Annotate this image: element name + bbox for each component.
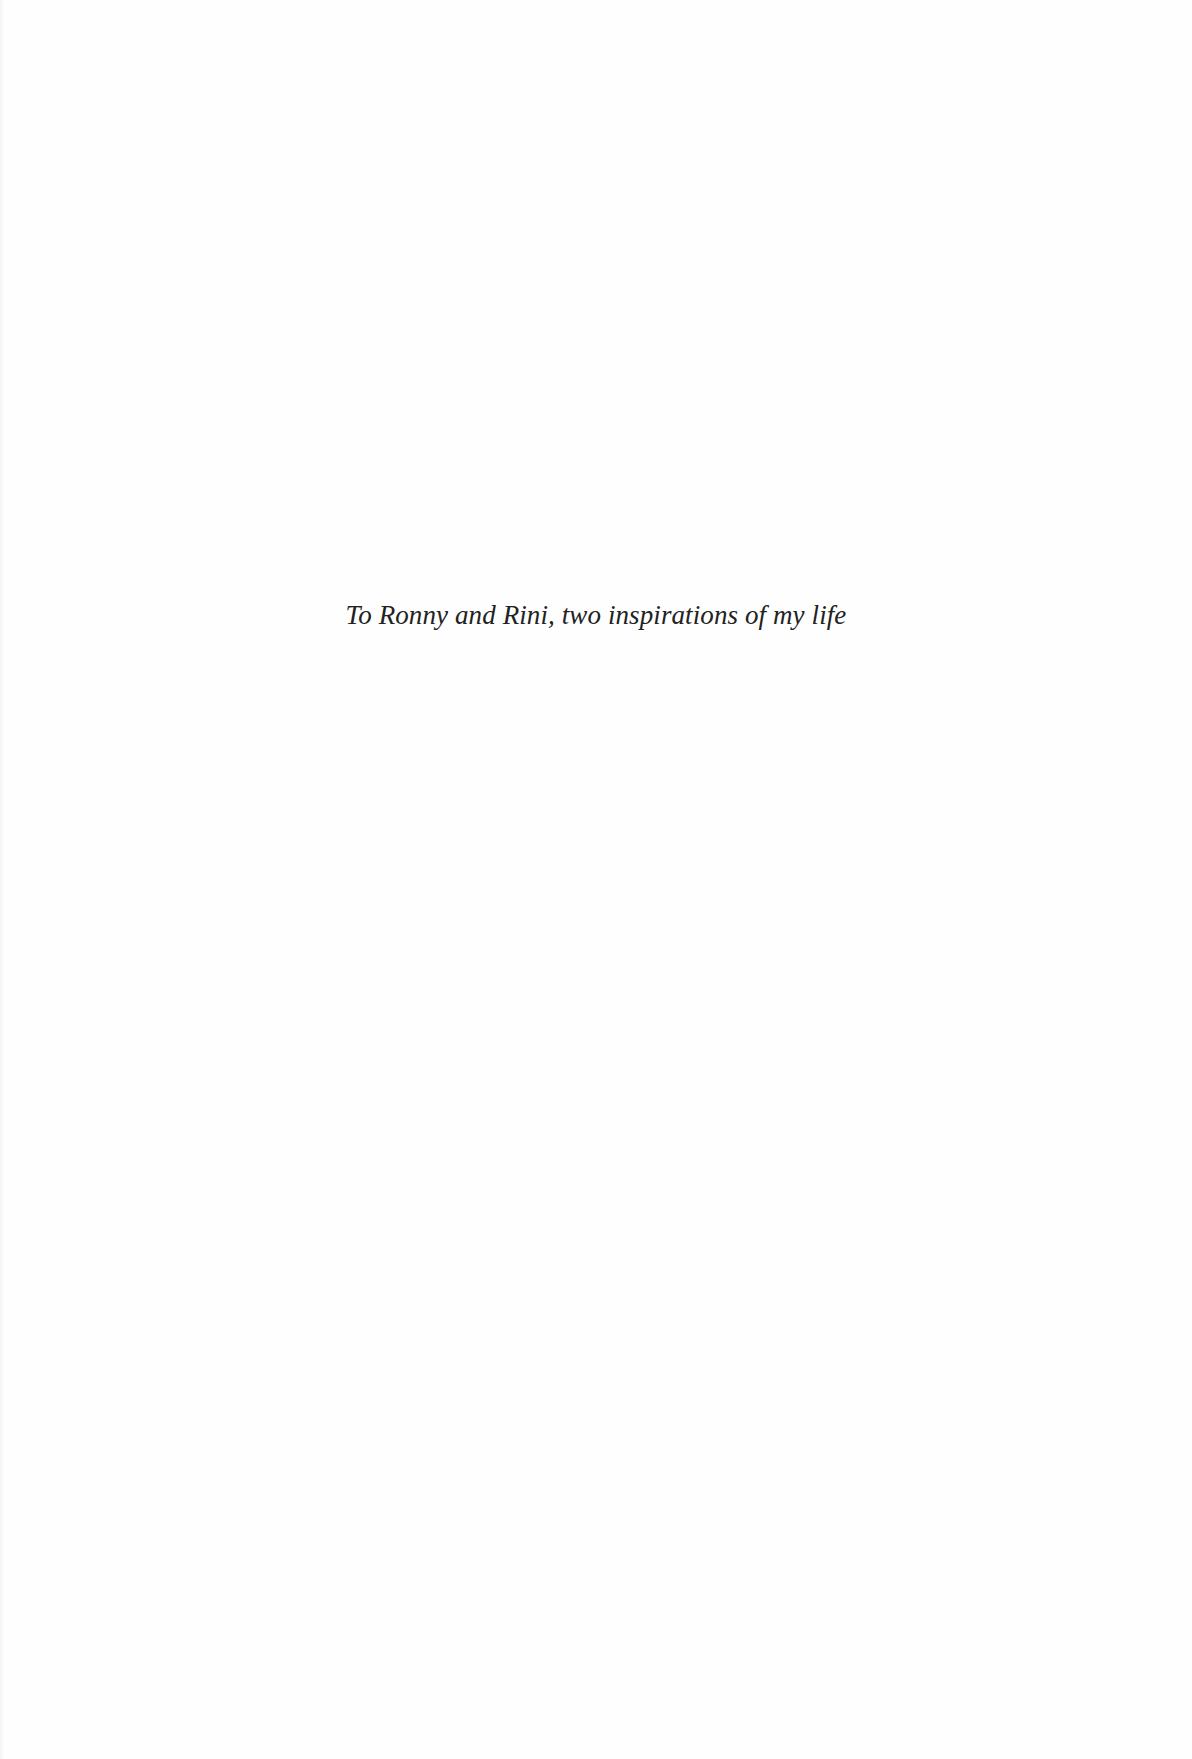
dedication-page: To Ronny and Rini, two inspirations of m… — [0, 0, 1192, 1759]
scan-edge — [0, 0, 4, 1759]
dedication-text: To Ronny and Rini, two inspirations of m… — [0, 595, 1192, 635]
